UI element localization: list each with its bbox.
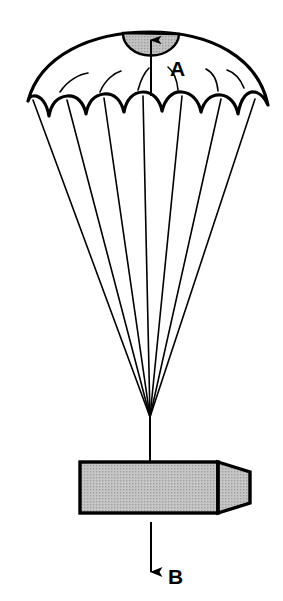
- payload-box: [80, 462, 250, 513]
- payload-body: [80, 462, 218, 513]
- parachute-diagram-canvas: A B: [0, 0, 283, 601]
- parachute-diagram-svg: A B: [0, 0, 283, 601]
- label-b: B: [168, 565, 183, 588]
- label-a: A: [170, 57, 185, 80]
- payload-nose: [218, 462, 250, 513]
